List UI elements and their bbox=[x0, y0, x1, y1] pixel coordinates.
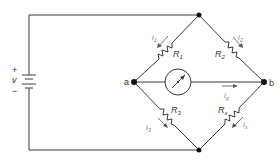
current-arrow-ig-icon bbox=[222, 84, 238, 88]
r2-label: R2 bbox=[215, 49, 226, 60]
battery-icon bbox=[22, 75, 36, 88]
node-b bbox=[261, 79, 267, 85]
node-b-label: b bbox=[269, 78, 274, 88]
r3-label: R3 bbox=[171, 105, 182, 116]
node-a-label: a bbox=[124, 77, 129, 87]
galvanometer-icon bbox=[165, 69, 191, 95]
ix-label: ix bbox=[243, 120, 249, 130]
node-a bbox=[131, 79, 137, 85]
current-arrow-ix-icon bbox=[232, 117, 243, 128]
r1-wire-upper bbox=[172, 15, 199, 43]
battery-plus-label: + bbox=[12, 65, 17, 75]
resistor-r2-icon bbox=[225, 42, 239, 58]
i1-label: i1 bbox=[152, 33, 157, 43]
battery-minus-label: − bbox=[12, 86, 17, 96]
current-arrow-i1-icon bbox=[157, 36, 168, 48]
ig-label: ig bbox=[224, 91, 230, 101]
r2-wire-lower bbox=[239, 58, 264, 82]
battery-voltage-label: v bbox=[12, 75, 17, 85]
bottom-node bbox=[197, 148, 202, 153]
current-arrow-i3-icon bbox=[158, 118, 168, 128]
top-node bbox=[197, 13, 202, 18]
wheatstone-bridge-diagram: + v − a b R1 R2 R3 Rx i1 i2 bbox=[0, 0, 280, 161]
r3-wire-lower bbox=[174, 125, 199, 150]
rx-wire-upper bbox=[239, 82, 264, 108]
rx-label: Rx bbox=[218, 105, 229, 116]
i3-label: i3 bbox=[146, 123, 152, 133]
r1-label: R1 bbox=[173, 49, 183, 60]
r3-wire-upper bbox=[134, 82, 160, 109]
r1-wire-lower bbox=[134, 59, 159, 82]
r2-wire-upper bbox=[199, 15, 225, 42]
rx-wire-lower bbox=[199, 124, 225, 150]
i2-label: i2 bbox=[238, 33, 244, 43]
